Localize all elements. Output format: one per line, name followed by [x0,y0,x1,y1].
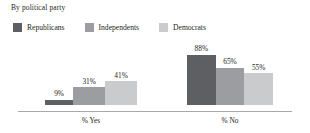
bar-group-yes-bars: 9% 31% 41% [45,39,137,105]
x-axis-label-no: % No [187,116,273,125]
x-axis-label-yes: % Yes [45,116,137,125]
chart-legend: Republicans Independents Democrats [13,23,206,32]
legend-item-republicans: Republicans [13,23,65,32]
legend-swatch-square-independents [85,23,94,32]
legend-label-democrats: Democrats [173,23,206,32]
bar-group-no: 88% 65% 55% % No [187,45,273,127]
bar-group-yes: 9% 31% 41% % Yes [45,45,137,127]
bar-rect-yes-republicans [45,100,73,105]
bar-rect-no-republicans [187,55,216,106]
bar-no-republicans: 88% [187,39,216,105]
bar-group-no-bars: 88% 65% 55% [187,39,273,105]
bar-value-no-democrats: 55% [252,64,266,72]
legend-label-republicans: Republicans [27,23,65,32]
bar-value-yes-republicans: 9% [54,90,64,98]
bar-value-no-independents: 65% [223,58,237,66]
bar-rect-yes-democrats [105,81,137,105]
chart-legend-title: By political party [11,3,65,12]
bar-value-yes-democrats: 41% [114,72,128,80]
political-party-bar-chart: By political party Republicans Independe… [0,0,310,133]
bar-rect-no-democrats [244,73,273,105]
bar-rect-no-independents [216,68,245,105]
bar-yes-independents: 31% [73,39,105,105]
bar-no-democrats: 55% [244,39,273,105]
bar-rect-yes-independents [73,87,105,105]
legend-item-democrats: Democrats [159,23,206,32]
legend-label-independents: Independents [99,23,140,32]
bar-value-yes-independents: 31% [82,78,96,86]
bar-value-no-republicans: 88% [195,45,209,53]
legend-swatch-square-republicans [13,23,22,32]
bar-yes-democrats: 41% [105,39,137,105]
plot-area: 9% 31% 41% % Yes 88% [0,45,310,133]
legend-swatch-square-democrats [159,23,168,32]
bar-yes-republicans: 9% [45,39,73,105]
legend-item-independents: Independents [85,23,140,32]
bar-no-independents: 65% [216,39,245,105]
